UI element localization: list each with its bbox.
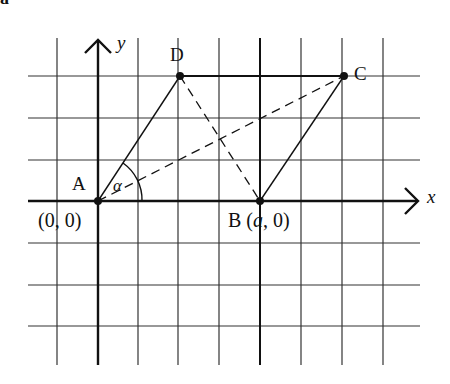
point-d [176, 72, 184, 80]
point-a [94, 197, 102, 205]
point-b [256, 197, 264, 205]
label-a: A [72, 173, 86, 195]
label-b-coords-open: ( [246, 209, 253, 231]
label-c: C [354, 63, 367, 85]
label-b-coords-var: a [253, 209, 263, 231]
axes [28, 40, 418, 365]
diagonal-ac [98, 76, 344, 201]
y-axis-label: y [117, 32, 125, 54]
angle-alpha-label: α [113, 176, 122, 196]
point-c [340, 72, 348, 80]
label-d: D [170, 44, 184, 66]
parallelogram [98, 76, 344, 201]
label-b-name: B [228, 209, 241, 231]
label-b: B (a, 0) [228, 209, 290, 232]
corner-label: a [0, 0, 9, 9]
x-axis-label: x [427, 186, 435, 208]
angle-arc [123, 163, 142, 201]
side-cb [260, 76, 344, 201]
label-a-coords: (0, 0) [38, 209, 81, 232]
label-b-coords-close: , 0) [263, 209, 290, 231]
parallelogram-diagram [0, 0, 450, 384]
